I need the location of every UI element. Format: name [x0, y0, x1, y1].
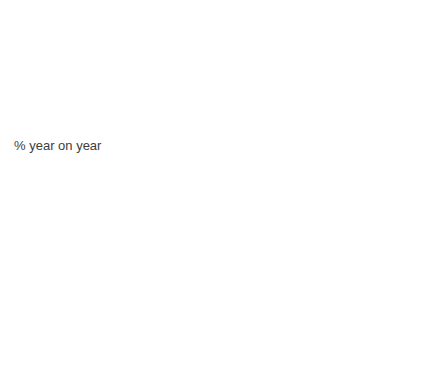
inflation-line-chart: % year on year — [0, 0, 430, 385]
plot-area — [0, 160, 430, 345]
plot-svg — [0, 160, 430, 345]
x-axis-labels — [0, 345, 430, 385]
y-axis-title: % year on year — [14, 138, 101, 153]
